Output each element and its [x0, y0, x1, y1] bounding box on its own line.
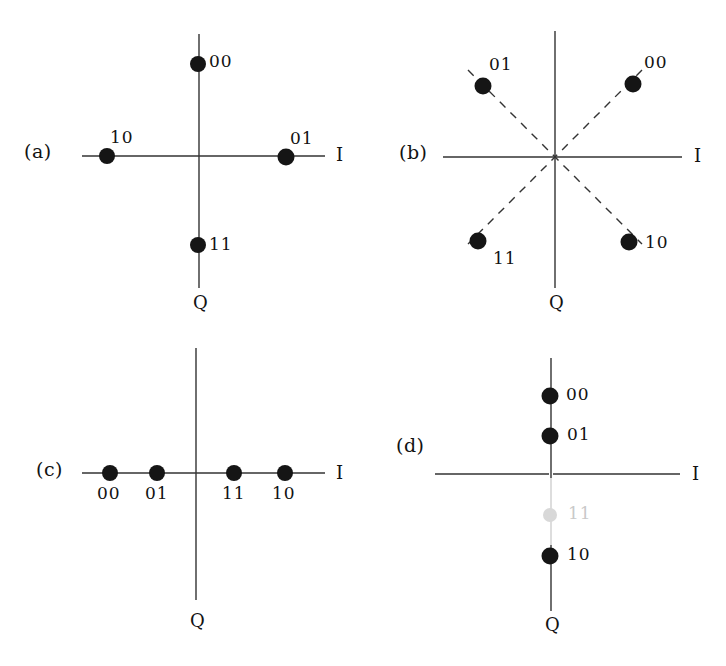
point-label-10: 10 [645, 234, 669, 251]
point-label-11: 11 [209, 236, 233, 253]
constellation-point [542, 388, 559, 405]
constellation-point [99, 148, 115, 164]
constellation-point [278, 149, 295, 166]
point-label-11: 11 [222, 485, 246, 502]
constellation-point [621, 234, 638, 251]
panel-c: (c) 00 01 11 10 I Q [0, 333, 363, 666]
constellation-point [470, 233, 487, 250]
axis-label-q: Q [193, 294, 208, 312]
point-label-01: 01 [489, 56, 513, 73]
constellation-point-faded [543, 508, 557, 522]
axis-label-q: Q [549, 294, 564, 312]
point-label-00: 00 [97, 485, 121, 502]
point-label-11: 11 [493, 250, 517, 267]
axis-label-q: Q [545, 616, 560, 634]
constellation-figure: (a) 00 01 11 10 I Q (b) 01 00 11 10 I Q [0, 0, 726, 666]
panel-tag-c: (c) [36, 460, 63, 479]
axis-label-i: I [694, 147, 702, 165]
panel-tag-d: (d) [396, 436, 425, 455]
panel-c-graphic [0, 333, 363, 666]
axis-label-q: Q [190, 612, 205, 630]
point-label-10: 10 [272, 485, 296, 502]
point-label-00: 00 [209, 53, 233, 70]
axis-label-i: I [336, 464, 344, 482]
constellation-point [475, 78, 492, 95]
constellation-point [190, 56, 206, 72]
point-label-10: 10 [567, 546, 591, 563]
constellation-point [149, 465, 165, 481]
axis-label-i: I [692, 465, 700, 483]
constellation-point [190, 237, 206, 253]
panel-a: (a) 00 01 11 10 I Q [0, 0, 363, 333]
point-label-00: 00 [644, 54, 668, 71]
point-label-10: 10 [110, 129, 134, 146]
constellation-point [542, 548, 559, 565]
panel-d: (d) 00 01 11 10 I Q [363, 333, 726, 666]
panel-tag-a: (a) [24, 142, 52, 161]
panel-b-graphic [363, 0, 726, 333]
constellation-point [542, 428, 559, 445]
constellation-point [625, 76, 642, 93]
constellation-point [226, 465, 242, 481]
point-label-01: 01 [567, 426, 591, 443]
axis-label-i: I [336, 146, 344, 164]
panel-tag-b: (b) [399, 143, 428, 162]
panel-a-graphic [0, 0, 363, 333]
point-label-01: 01 [145, 485, 169, 502]
point-label-01: 01 [290, 130, 314, 147]
constellation-point [102, 465, 118, 481]
point-label-00: 00 [566, 386, 590, 403]
constellation-point [277, 465, 293, 481]
point-label-11: 11 [568, 505, 592, 522]
panel-b: (b) 01 00 11 10 I Q [363, 0, 726, 333]
